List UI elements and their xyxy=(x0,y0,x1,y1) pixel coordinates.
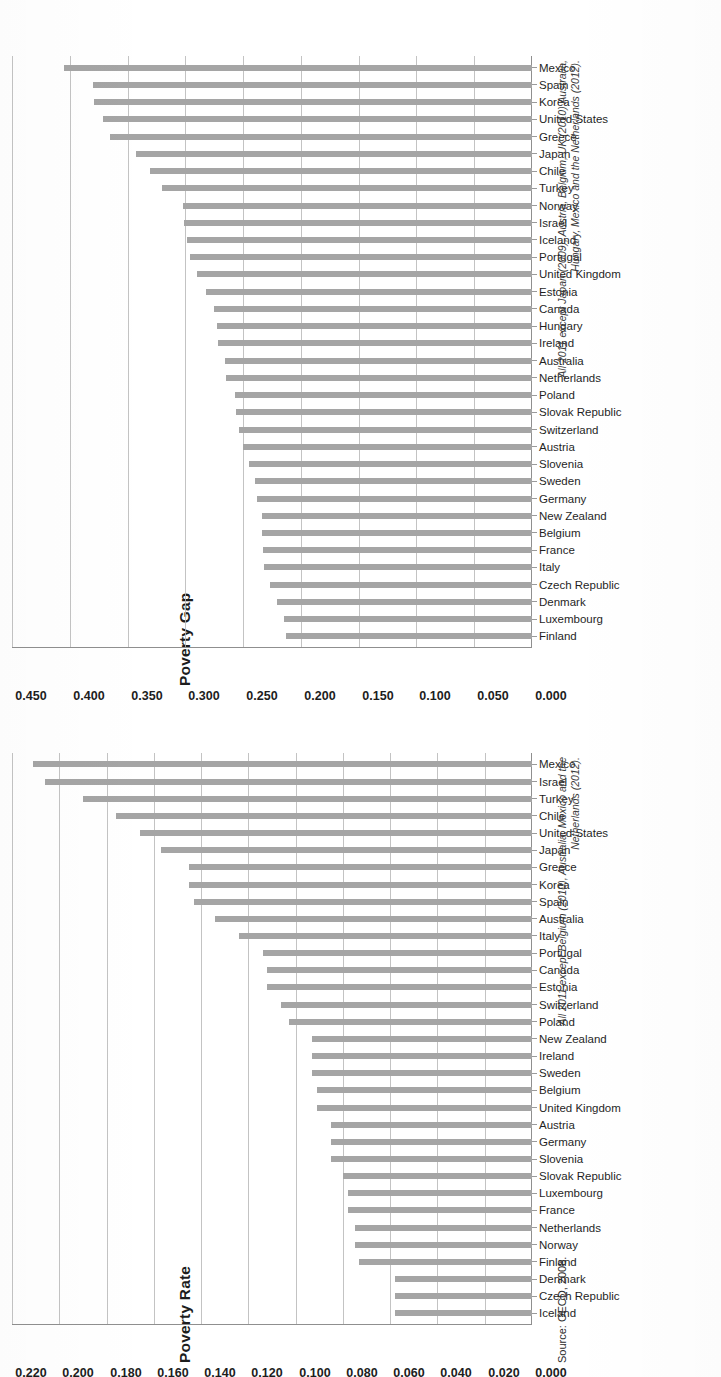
bar xyxy=(331,1122,532,1128)
category-cell: Switzerland xyxy=(539,421,689,438)
bar xyxy=(45,779,532,785)
tick-mark xyxy=(532,67,537,68)
category-cell: Italy xyxy=(539,559,689,576)
bar xyxy=(262,530,532,536)
bar-item xyxy=(12,455,532,472)
bar xyxy=(263,547,532,553)
value-axis-tick-label: 0.080 xyxy=(346,1366,377,1377)
bar xyxy=(64,65,532,71)
bar xyxy=(255,478,532,484)
category-label: Slovak Republic xyxy=(539,406,621,418)
bar-item xyxy=(12,231,532,248)
tick-mark xyxy=(532,550,537,551)
value-axis-tick-label: 0.040 xyxy=(441,1366,472,1377)
bar xyxy=(183,203,532,209)
tick-mark xyxy=(532,1210,537,1211)
tick-mark xyxy=(532,1107,537,1108)
bar-item xyxy=(12,162,532,179)
bar-item xyxy=(12,1048,532,1065)
category-cell: Slovak Republic xyxy=(539,404,689,421)
bar xyxy=(348,1190,532,1196)
bar xyxy=(249,461,532,467)
tick-cell xyxy=(532,576,538,593)
value-axis-tick-label: 0.180 xyxy=(110,1366,141,1377)
bar-item xyxy=(12,1030,532,1047)
bar-item xyxy=(12,1185,532,1202)
tick-cell xyxy=(532,1065,538,1082)
tick-cell xyxy=(532,145,538,162)
bar xyxy=(312,1053,532,1059)
tick-mark xyxy=(532,532,537,533)
bar xyxy=(289,1019,532,1025)
tick-mark xyxy=(532,987,537,988)
tick-mark xyxy=(532,360,537,361)
bar-item xyxy=(12,611,532,628)
bar-item xyxy=(12,1116,532,1133)
tick-cell xyxy=(532,318,538,335)
bar-item xyxy=(12,1202,532,1219)
tick-mark xyxy=(532,636,537,637)
tick-mark xyxy=(532,1073,537,1074)
bar xyxy=(136,151,532,157)
tick-cell xyxy=(532,1305,538,1322)
bar xyxy=(197,271,532,277)
poverty-gap-plot-area: FinlandLuxembourgDenmarkCzech RepublicIt… xyxy=(12,56,532,648)
tick-cell xyxy=(532,756,538,773)
tick-mark xyxy=(532,781,537,782)
tick-cell xyxy=(532,945,538,962)
tick-mark xyxy=(532,953,537,954)
category-label: Norway xyxy=(539,1239,578,1251)
tick-mark xyxy=(532,1176,537,1177)
bar-item xyxy=(12,249,532,266)
tick-mark xyxy=(532,377,537,378)
tick-cell xyxy=(532,824,538,841)
tick-cell xyxy=(532,1099,538,1116)
tick-mark xyxy=(532,136,537,137)
category-cell: Norway xyxy=(539,1236,689,1253)
bar-item xyxy=(12,859,532,876)
poverty-gap-tickmarks xyxy=(532,56,538,648)
tick-cell xyxy=(532,542,538,559)
bar-item xyxy=(12,59,532,76)
bar xyxy=(187,237,533,243)
bar-item xyxy=(12,979,532,996)
category-cell: Germany xyxy=(539,490,689,507)
category-label: Italy xyxy=(539,561,560,573)
bar xyxy=(140,830,532,836)
tick-cell xyxy=(532,773,538,790)
tick-mark xyxy=(532,901,537,902)
bar-item xyxy=(12,824,532,841)
bar-item xyxy=(12,1013,532,1030)
tick-cell xyxy=(532,559,538,576)
bar xyxy=(263,950,532,956)
category-label: United Kingdom xyxy=(539,1102,621,1114)
poverty-rate-note: All 2011 except Belgium (2010), Australi… xyxy=(556,757,582,1077)
tick-mark xyxy=(532,1124,537,1125)
bar xyxy=(359,1259,532,1265)
value-axis-tick-label: 0.060 xyxy=(394,1366,425,1377)
tick-cell xyxy=(532,300,538,317)
bar xyxy=(103,116,532,122)
category-cell: Slovenia xyxy=(539,455,689,472)
bar-item xyxy=(12,790,532,807)
tick-cell xyxy=(532,197,538,214)
tick-mark xyxy=(532,884,537,885)
bar xyxy=(236,409,532,415)
tick-cell xyxy=(532,1202,538,1219)
tick-cell xyxy=(532,386,538,403)
tick-cell xyxy=(532,455,538,472)
bar-item xyxy=(12,197,532,214)
bar-item xyxy=(12,1168,532,1185)
tick-cell xyxy=(532,249,538,266)
tick-mark xyxy=(532,464,537,465)
tick-mark xyxy=(532,1296,537,1297)
bar-item xyxy=(12,1133,532,1150)
bar-item xyxy=(12,318,532,335)
category-cell: Luxembourg xyxy=(539,1185,689,1202)
bar xyxy=(189,864,532,870)
bar xyxy=(226,375,532,381)
bar-item xyxy=(12,180,532,197)
category-cell: France xyxy=(539,542,689,559)
tick-cell xyxy=(532,1185,538,1202)
bar xyxy=(215,916,532,922)
